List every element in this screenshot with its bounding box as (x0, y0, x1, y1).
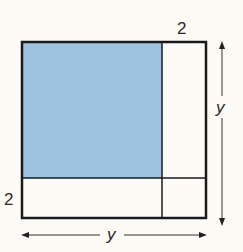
square-diagram: 2 2 y y (0, 0, 243, 252)
right-label: y (215, 98, 226, 117)
left-label: 2 (4, 190, 13, 209)
top-label: 2 (177, 19, 186, 38)
right-dimension-arrow (219, 41, 225, 226)
shaded-region (22, 42, 162, 178)
bottom-label: y (106, 225, 117, 244)
